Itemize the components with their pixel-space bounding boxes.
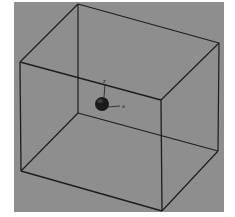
x-axis-label: x <box>122 103 125 109</box>
box-diagram: z x <box>0 0 235 217</box>
sphere-highlight <box>97 99 103 103</box>
sphere <box>95 97 109 111</box>
plot-background <box>14 2 224 212</box>
z-axis-label: z <box>103 78 106 84</box>
